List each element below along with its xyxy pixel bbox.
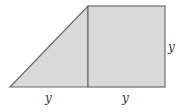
label-square-base: y: [121, 91, 129, 105]
square-shape: [88, 6, 165, 87]
diagram-canvas: y y y: [0, 0, 183, 112]
label-triangle-base: y: [44, 91, 52, 105]
triangle-shape: [10, 6, 88, 87]
label-square-side: y: [167, 40, 175, 54]
